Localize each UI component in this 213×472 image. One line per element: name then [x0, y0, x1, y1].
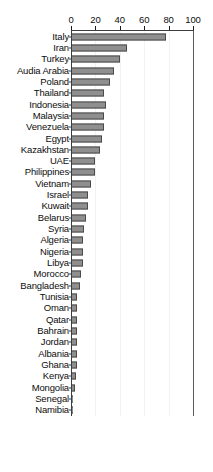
plot-area: ItalyIranTurkeyAudia ArabiaPolandThailan… — [0, 31, 213, 416]
bar — [71, 78, 110, 85]
bar-row: Audia Arabia — [0, 65, 213, 76]
category-label: Libya — [47, 258, 69, 268]
category-label: Kazakhstan — [21, 145, 69, 155]
bar — [71, 248, 83, 255]
bar-row: Tunisia — [0, 291, 213, 302]
category-label: Thailand — [34, 88, 69, 98]
category-label: Syria — [48, 224, 69, 234]
bar-row: Philippines — [0, 167, 213, 178]
category-label: Mongolia — [32, 383, 69, 393]
category-label: Turkey — [41, 54, 69, 64]
category-label: Poland — [40, 77, 69, 87]
category-label: Audia Arabia — [17, 66, 69, 76]
category-label: Kuwait — [41, 201, 69, 211]
x-axis-tick-label: 20 — [90, 14, 100, 25]
x-axis-tick-label: 0 — [68, 14, 73, 25]
bar-row: UAE — [0, 156, 213, 167]
bar-row: Mongolia — [0, 382, 213, 393]
category-label: Italy — [52, 32, 69, 42]
bar — [71, 112, 104, 119]
bar-row: Bangladesh — [0, 280, 213, 291]
category-label: Vietnam — [35, 179, 69, 189]
category-label: Egypt — [45, 134, 69, 144]
category-label: Oman — [44, 303, 69, 313]
category-label: Indonesia — [29, 100, 69, 110]
bar-row: Italy — [0, 31, 213, 42]
y-axis-line — [71, 31, 72, 416]
bar — [71, 203, 88, 210]
bar — [71, 180, 91, 187]
bar-row: Indonesia — [0, 99, 213, 110]
bar — [71, 260, 83, 267]
bar-row: Oman — [0, 303, 213, 314]
bar — [71, 282, 80, 289]
x-axis-tick-label: 80 — [163, 14, 173, 25]
category-label: Senegal — [35, 394, 69, 404]
bar — [71, 271, 81, 278]
bar — [71, 67, 114, 74]
category-label: UAE — [50, 156, 69, 166]
bar — [71, 33, 166, 40]
bar-row: Venezuela — [0, 122, 213, 133]
bar — [71, 158, 95, 165]
x-axis-tick-label: 100 — [185, 14, 201, 25]
category-label: Namibia — [35, 405, 69, 415]
bar-row: Vietnam — [0, 178, 213, 189]
category-label: Ghana — [41, 360, 69, 370]
category-label: Albania — [38, 349, 69, 359]
category-label: Iran — [53, 43, 69, 53]
bar — [71, 135, 102, 142]
bar-row: Qatar — [0, 314, 213, 325]
bar-row: Senegal — [0, 393, 213, 404]
x-axis-tick-labels: 020406080100 — [0, 14, 213, 26]
category-label: Israel — [47, 190, 69, 200]
bar — [71, 56, 120, 63]
category-label: Nigeria — [40, 247, 69, 257]
bar-row: Belarus — [0, 212, 213, 223]
bar-row: Thailand — [0, 88, 213, 99]
bar-row: Egypt — [0, 133, 213, 144]
bar-row: Bahrain — [0, 325, 213, 336]
bar-row: Kazakhstan — [0, 144, 213, 155]
bar — [71, 90, 104, 97]
category-label: Kenya — [43, 371, 69, 381]
bar-row: Syria — [0, 223, 213, 234]
bar-row: Ghana — [0, 359, 213, 370]
bar-row: Namibia — [0, 405, 213, 416]
plot-right-border — [193, 31, 194, 416]
category-label: Bangladesh — [20, 281, 69, 291]
bar-row: Algeria — [0, 235, 213, 246]
category-label: Malaysia — [33, 111, 69, 121]
bar-row: Kenya — [0, 371, 213, 382]
bar-chart: 020406080100 ItalyIranTurkeyAudia Arabia… — [0, 0, 213, 472]
bar-row: Turkey — [0, 54, 213, 65]
bar — [71, 237, 83, 244]
category-label: Algeria — [40, 235, 69, 245]
category-label: Bahrain — [37, 326, 69, 336]
category-label: Philippines — [25, 167, 69, 177]
bar — [71, 124, 104, 131]
bar-row: Israel — [0, 189, 213, 200]
category-label: Jordan — [41, 337, 69, 347]
bar — [71, 214, 86, 221]
bar-row: Libya — [0, 257, 213, 268]
bar — [71, 146, 100, 153]
bar — [71, 226, 84, 233]
bar-row: Morocco — [0, 269, 213, 280]
category-label: Belarus — [38, 213, 69, 223]
bar-row: Albania — [0, 348, 213, 359]
bar — [71, 44, 127, 51]
category-label: Tunisia — [40, 292, 69, 302]
bar — [71, 169, 95, 176]
category-label: Venezuela — [26, 122, 69, 132]
bar-row: Kuwait — [0, 201, 213, 212]
x-axis-tick-label: 40 — [115, 14, 125, 25]
bar-row: Jordan — [0, 337, 213, 348]
category-label: Morocco — [34, 269, 69, 279]
bar-row: Iran — [0, 42, 213, 53]
bar-row: Malaysia — [0, 110, 213, 121]
bar — [71, 101, 106, 108]
category-label: Qatar — [46, 315, 69, 325]
bar — [71, 192, 88, 199]
x-axis-tick-label: 60 — [139, 14, 149, 25]
